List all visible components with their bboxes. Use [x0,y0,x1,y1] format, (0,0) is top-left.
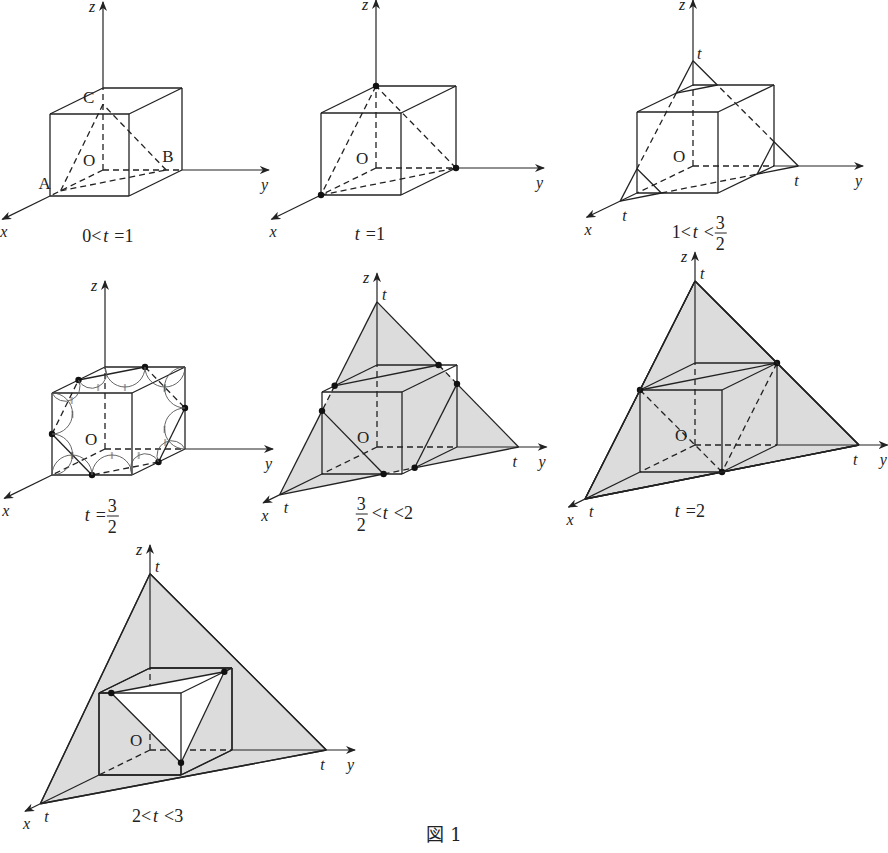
panel-caption: t=32 [85,496,119,537]
origin-label: O [130,731,142,750]
panel-p3: zyxOttt1<t<32 [584,0,864,254]
caption-text: =2 [686,501,705,521]
hexagon-edge [52,380,79,434]
x-axis [272,195,322,219]
cube-edge [129,170,182,196]
hexagon-edge [92,462,159,475]
plane-edge [693,61,717,85]
section-edge [637,93,676,169]
section-vertex [411,465,417,471]
equal-length-arc [52,434,73,475]
caption-text: t [85,505,91,525]
equal-length-arc [165,367,186,408]
cube-edge [718,166,774,193]
section-edge [61,104,103,190]
z-axis-label: z [680,248,688,265]
panel-p4: zyxO‖‖‖‖‖‖‖‖‖‖‖‖t=32 [1,277,273,537]
plane-edge [757,166,798,174]
y-axis-label: y [537,453,547,471]
z-axis-label: z [362,269,370,286]
fraction-numerator: 3 [357,494,366,514]
x-axis-label: x [0,223,7,240]
vertex-dot [453,165,459,171]
z-axis-label: z [361,0,369,13]
caption-text: =1 [114,226,133,246]
origin-label: O [673,147,685,166]
x-axis-label: x [269,223,277,240]
t-label-y: t [320,756,325,773]
cube-edge [321,86,376,113]
t-label-z: t [700,265,705,282]
plane-edge [676,61,693,93]
section-vertex [435,362,441,368]
panel-caption: 32<t<2 [356,494,413,535]
section-vertex [178,760,184,766]
origin-label: O [85,430,97,449]
panel-p7: zyxOttt2<t<3 [22,541,355,832]
tick-mark-icon: ‖ [137,450,140,461]
section-vertex [108,690,114,696]
caption-text: < [372,503,382,523]
y-axis-label: y [263,455,273,473]
origin-label: O [83,151,95,170]
tick-mark-icon: ‖ [70,395,73,406]
tick-mark-icon: ‖ [71,450,74,461]
tick-mark-icon: ‖ [164,382,167,393]
tick-mark-icon: ‖ [111,450,114,461]
section-edge [321,86,376,195]
y-axis-label: y [853,172,863,190]
fraction-denominator: 2 [108,517,117,537]
origin-label: O [356,149,368,168]
plane-edge [676,85,717,93]
cube-edge [401,168,456,195]
caption-text: t [383,503,389,523]
t-label-z: t [382,286,387,303]
section-edge [61,170,167,191]
point-C-label: C [83,88,94,107]
z-axis-label: z [678,0,686,13]
section-edge [321,168,456,195]
cube-edge [401,86,456,113]
plane-edge [774,142,798,166]
cube-edge [718,85,774,112]
vertex-dot [318,192,324,198]
panel-p2: zyxOt=1 [269,0,545,244]
section-edge [661,174,757,193]
t-label-y: t [853,451,858,468]
panel-caption: 1<t<32 [672,213,727,254]
caption-text: 1< [672,222,691,242]
plane-edge [637,169,661,193]
plane-region [280,302,519,495]
plane-edge [620,169,637,201]
t-label-z: t [155,558,160,575]
caption-text: t [103,226,109,246]
fraction-numerator: 3 [716,213,725,233]
tick-mark-icon: ‖ [97,382,100,393]
y-axis-label: y [878,451,888,469]
section-vertex [454,381,460,387]
caption-text: t [355,224,361,244]
hexagon-edge [159,408,186,462]
t-label-y: t [513,453,518,470]
caption-text: <2 [394,503,413,523]
t-label-x: t [284,499,289,516]
plane-edge [757,142,774,174]
t-label-z: t [697,45,702,62]
section-edge [717,85,774,142]
cube-edge [637,85,693,112]
point-B-label: B [162,147,173,166]
section-vertex [380,471,386,477]
fraction-numerator: 3 [108,496,117,516]
t-label-y: t [794,172,799,189]
plane-edge [620,193,661,201]
point-A-label: A [39,174,52,193]
section-vertex [221,669,227,675]
panel-caption: 0<t=1 [82,226,133,246]
y-axis-label: y [534,174,544,192]
tick-mark-icon: ‖ [71,409,74,420]
x-axis-label: x [566,511,574,528]
caption-text: 0< [82,226,101,246]
section-vertex [331,383,337,389]
x-axis [2,196,50,219]
fraction-denominator: 2 [357,515,366,535]
